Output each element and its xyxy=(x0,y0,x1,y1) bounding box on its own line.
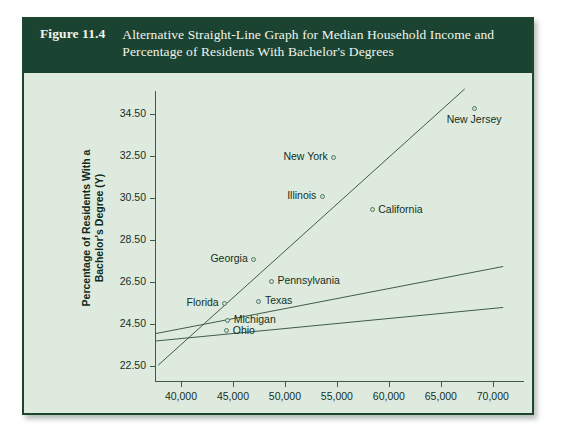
x-axis-title: Median Household Income (X) xyxy=(155,411,524,413)
y-tick xyxy=(150,198,155,199)
figure-number: Figure 11.4 xyxy=(40,26,105,42)
data-point-label: New York xyxy=(283,150,327,162)
data-point xyxy=(269,279,274,284)
shallow-line xyxy=(155,307,503,341)
x-tick xyxy=(233,382,234,387)
figure-caption: Alternative Straight-Line Graph for Medi… xyxy=(122,26,516,60)
data-point xyxy=(370,207,375,212)
data-point xyxy=(225,318,230,323)
x-tick xyxy=(389,382,390,387)
y-tick xyxy=(150,366,155,367)
y-tick-label: 22.50 xyxy=(120,359,146,371)
data-point xyxy=(320,194,325,199)
data-point xyxy=(251,257,256,262)
figure-box: Figure 11.4 Alternative Straight-Line Gr… xyxy=(22,17,534,415)
y-tick-label: 30.50 xyxy=(120,191,146,203)
x-tick xyxy=(285,382,286,387)
x-tick xyxy=(441,382,442,387)
data-point-label: Florida xyxy=(187,296,219,308)
data-point-label: California xyxy=(378,203,422,215)
y-tick-label: 24.50 xyxy=(120,317,146,329)
data-point-label: Illinois xyxy=(287,189,316,201)
page-root: Figure 11.4 Alternative Straight-Line Gr… xyxy=(0,0,576,445)
x-tick xyxy=(337,382,338,387)
y-tick xyxy=(150,156,155,157)
data-point-label: Pennsylvania xyxy=(277,274,339,286)
figure-title-banner: Figure 11.4 Alternative Straight-Line Gr… xyxy=(24,19,532,73)
data-point xyxy=(331,155,336,160)
x-tick xyxy=(181,382,182,387)
y-tick-label: 34.50 xyxy=(120,107,146,119)
y-axis-title: Percentage of Residents With aBachelor's… xyxy=(80,83,106,373)
x-tick-label: 70,000 xyxy=(463,390,523,402)
y-axis-line xyxy=(155,91,156,382)
y-tick-label: 26.50 xyxy=(120,275,146,287)
data-point-label: New Jersey xyxy=(442,113,506,125)
y-tick xyxy=(150,114,155,115)
y-tick xyxy=(150,240,155,241)
data-point-label: Ohio xyxy=(233,324,255,336)
y-tick xyxy=(150,282,155,283)
x-tick xyxy=(493,382,494,387)
data-point xyxy=(222,301,227,306)
y-tick xyxy=(150,324,155,325)
plot-area: New JerseyNew YorkIllinoisCaliforniaGeor… xyxy=(24,73,532,413)
y-tick-label: 28.50 xyxy=(120,233,146,245)
y-tick-label: 32.50 xyxy=(120,149,146,161)
x-axis-line xyxy=(155,381,524,382)
data-point-label: Georgia xyxy=(210,252,247,264)
data-point-label: Texas xyxy=(265,294,292,306)
